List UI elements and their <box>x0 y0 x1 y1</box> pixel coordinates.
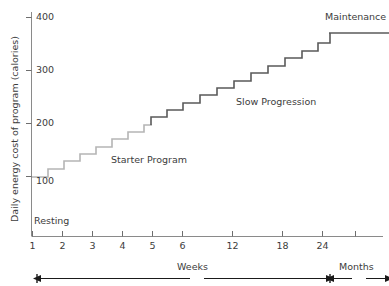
y-axis-ticks <box>26 18 32 177</box>
x-tick-label-5: 5 <box>142 241 163 251</box>
slow-progression-step-line <box>151 33 330 125</box>
x-tick-label-6: 6 <box>172 241 193 251</box>
x-tick-label-2: 2 <box>52 241 73 251</box>
y-tick-label-300: 300 <box>36 65 54 75</box>
x-tick-label-4: 4 <box>112 241 133 251</box>
y-tick-label-100: 100 <box>36 176 54 186</box>
weeks-axis-label: Weeks <box>177 262 208 272</box>
y-tick-label-200: 200 <box>36 118 54 128</box>
annotation-maintenance: Maintenance <box>325 12 386 22</box>
x-tick-label-1: 1 <box>22 241 43 251</box>
weeks-span-arrow <box>37 274 330 283</box>
months-axis-label: Months <box>339 262 374 272</box>
x-axis-ticks <box>33 231 356 237</box>
y-tick-label-400: 400 <box>36 12 54 22</box>
annotation-starter-program: Starter Program <box>111 155 187 165</box>
annotation-resting: Resting <box>34 216 69 226</box>
starter-program-step-line <box>32 125 152 177</box>
annotation-slow-progression: Slow Progression <box>236 97 316 107</box>
energy-cost-step-chart: Daily energy cost of program (calories) … <box>0 0 389 286</box>
x-tick-label-18: 18 <box>272 241 293 251</box>
x-tick-label-12: 12 <box>222 241 243 251</box>
x-tick-label-24: 24 <box>312 241 333 251</box>
x-tick-label-3: 3 <box>82 241 103 251</box>
y-axis-title: Daily energy cost of program (calories) <box>10 36 20 222</box>
